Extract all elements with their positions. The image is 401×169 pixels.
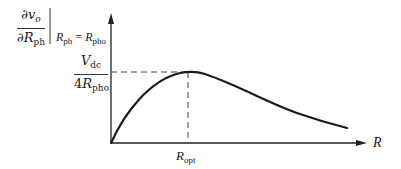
fraction-bar <box>74 74 108 75</box>
x-tick-sub: opt <box>184 155 196 165</box>
peak-value-label: Vdc 4Rpho <box>74 53 108 96</box>
peak-den-sub: pho <box>92 83 109 93</box>
x-tick-main: R <box>176 148 184 163</box>
x-axis-label: R <box>373 135 382 151</box>
cond-rhs-sub: pho <box>92 36 106 46</box>
peak-num-sub: dc <box>90 60 101 70</box>
cond-eq: = <box>72 30 85 44</box>
x-tick-ropt: Ropt <box>176 148 195 165</box>
evaluation-condition: Rph = Rpho <box>56 30 106 46</box>
x-axis-arrow-icon <box>356 140 367 146</box>
cond-lhs-sub: ph <box>63 36 72 46</box>
y-axis-arrow-icon <box>108 13 114 24</box>
y-num: ∂v <box>21 7 35 22</box>
fraction-bar <box>17 28 45 29</box>
chart-canvas <box>0 0 401 169</box>
y-axis-label: ∂vo ∂Rph <box>17 7 45 50</box>
peak-num: V <box>81 53 90 68</box>
peak-den: R <box>82 76 92 91</box>
sensitivity-curve <box>111 72 347 143</box>
y-den: ∂R <box>17 30 34 45</box>
y-num-sub: o <box>35 14 40 24</box>
y-den-sub: ph <box>34 37 46 47</box>
